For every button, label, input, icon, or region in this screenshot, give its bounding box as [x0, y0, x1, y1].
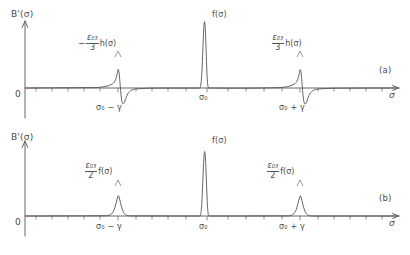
panel-b: B'(σ) 0 σ (b) σ₀ − γ σ₀ σ₀ + γ ε₀₃ 2 f(σ…: [0, 128, 410, 255]
y-axis-label-b: B'(σ): [11, 133, 33, 142]
feature-label-b-right: ε₀₃ 2 f(σ): [266, 162, 294, 180]
panel-a: B'(σ) 0 σ (a) σ₀ − γ σ₀ σ₀ + γ − ε₀₃ 3 h…: [0, 0, 410, 127]
feature-label-a-left-tail: h(σ): [99, 39, 116, 48]
tick-label-a-center: σ₀: [199, 94, 208, 102]
feature-label-b-left-tail: f(σ): [97, 167, 112, 176]
label-pointers-b: [115, 180, 303, 186]
tick-label-b-right: σ₀ + γ: [279, 223, 305, 231]
x-axis-label-b: σ: [389, 219, 395, 228]
feature-label-b-right-denominator: 2: [270, 172, 275, 181]
x-axis-ticks-b: [36, 216, 382, 221]
feature-label-a-right-denominator: 3: [275, 44, 280, 53]
feature-label-a-left: − ε₀₃ 3 h(σ): [78, 34, 116, 52]
figure-two-panel-spectra: B'(σ) 0 σ (a) σ₀ − γ σ₀ σ₀ + γ − ε₀₃ 3 h…: [0, 0, 410, 255]
x-axis-label-a: σ: [389, 91, 395, 100]
feature-label-b-right-fraction: ε₀₃ 2: [267, 162, 280, 180]
feature-label-b-left: ε₀₃ 2 f(σ): [84, 162, 112, 180]
panel-b-plot: [0, 128, 410, 255]
feature-label-b-right-tail: f(σ): [279, 167, 294, 176]
feature-label-a-left-fraction: ε₀₃ 3: [86, 34, 99, 52]
tick-label-a-right: σ₀ + γ: [279, 104, 305, 112]
feature-label-b-left-denominator: 2: [88, 172, 93, 181]
feature-label-a-left-sign: −: [78, 38, 86, 48]
panel-tag-b: (b): [379, 194, 392, 203]
feature-label-a-right-fraction: ε₀₃ 3: [272, 34, 285, 52]
panel-tag-a: (a): [379, 66, 391, 75]
y-axis-label-a: B'(σ): [11, 10, 33, 19]
feature-label-a-center: f(σ): [212, 11, 227, 19]
feature-label-b-left-fraction: ε₀₃ 2: [85, 162, 98, 180]
panel-a-plot: [0, 0, 410, 127]
origin-label-b: 0: [15, 218, 21, 227]
tick-label-a-left: σ₀ − γ: [96, 104, 122, 112]
feature-label-a-right-tail: h(σ): [284, 39, 301, 48]
feature-label-a-right: ε₀₃ 3 h(σ): [271, 34, 302, 52]
feature-label-b-center: f(σ): [212, 137, 227, 145]
trace-b: [26, 151, 396, 216]
feature-label-a-left-denominator: 3: [90, 44, 95, 53]
origin-label-a: 0: [15, 90, 21, 99]
tick-label-b-left: σ₀ − γ: [96, 223, 122, 231]
tick-label-b-center: σ₀: [199, 223, 208, 231]
